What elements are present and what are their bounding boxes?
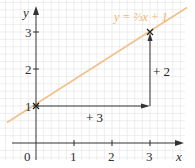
x-axis-label: x xyxy=(175,149,182,164)
y-axis-arrow-icon xyxy=(33,6,39,15)
y-tick-2: 2 xyxy=(25,62,32,77)
x-tick-3: 3 xyxy=(146,149,153,164)
y-tick-3: 3 xyxy=(25,25,32,40)
equation-label: y = ⅔x + 1 xyxy=(113,10,168,24)
ticks xyxy=(33,32,150,146)
run-arrowhead-icon xyxy=(141,104,150,109)
graph: y x 0 1 2 3 1 2 3 y = ⅔x + 1 + 3 + 2 xyxy=(0,0,195,168)
run-label: + 3 xyxy=(86,110,103,125)
origin-label: 0 xyxy=(24,149,31,164)
x-axis-arrow-icon xyxy=(175,140,184,146)
y-tick-1: 1 xyxy=(25,99,32,114)
rise-label: + 2 xyxy=(153,64,170,79)
grid xyxy=(0,0,185,160)
x-tick-2: 2 xyxy=(108,149,115,164)
x-tick-1: 1 xyxy=(70,149,77,164)
y-axis-label: y xyxy=(21,5,29,20)
